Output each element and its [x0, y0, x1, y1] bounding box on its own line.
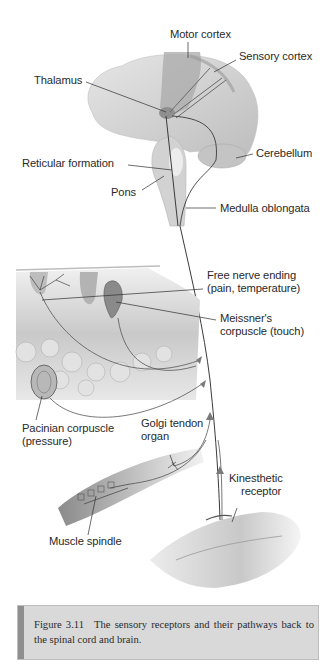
- label-pacinian-line1: Pacinian corpuscle: [22, 422, 114, 435]
- label-golgi-line2: organ: [141, 430, 203, 443]
- label-meissners-line2: corpuscle (touch): [220, 325, 304, 338]
- label-pons: Pons: [111, 186, 136, 199]
- label-pacinian-corpuscle: Pacinian corpuscle (pressure): [22, 422, 114, 448]
- sensory-pathways-figure: Motor cortex Sensory cortex Thalamus Cer…: [0, 0, 335, 600]
- label-muscle-spindle: Muscle spindle: [49, 535, 122, 548]
- caption-accent-bar: [18, 606, 24, 659]
- caption-text: Figure 3.11 The sensory receptors and th…: [34, 617, 314, 647]
- label-free-nerve-ending-line2: (pain, temperature): [207, 282, 300, 295]
- label-pacinian-line2: (pressure): [22, 435, 114, 448]
- label-golgi-tendon-organ: Golgi tendon organ: [141, 417, 203, 443]
- label-meissners-corpuscle: Meissner's corpuscle (touch): [220, 312, 304, 338]
- label-sensory-cortex: Sensory cortex: [239, 50, 312, 63]
- label-free-nerve-ending: Free nerve ending (pain, temperature): [207, 269, 300, 295]
- anatomy-illustration: [0, 0, 335, 600]
- label-cerebellum: Cerebellum: [256, 147, 312, 160]
- label-medulla-oblongata: Medulla oblongata: [220, 202, 310, 215]
- skin-section: [16, 266, 206, 417]
- label-kinesthetic-line1: Kinesthetic: [229, 472, 283, 485]
- brain: [88, 52, 258, 226]
- label-thalamus: Thalamus: [34, 74, 82, 87]
- label-meissners-line1: Meissner's: [220, 312, 304, 325]
- label-kinesthetic-receptor: Kinesthetic receptor: [229, 472, 283, 498]
- label-golgi-line1: Golgi tendon: [141, 417, 203, 430]
- figure-caption: Figure 3.11 The sensory receptors and th…: [17, 605, 319, 660]
- caption-figure-number: Figure 3.11: [34, 619, 84, 630]
- label-motor-cortex: Motor cortex: [170, 28, 231, 41]
- label-kinesthetic-line2: receptor: [229, 485, 283, 498]
- label-free-nerve-ending-line1: Free nerve ending: [207, 269, 300, 282]
- label-reticular-formation: Reticular formation: [22, 157, 114, 170]
